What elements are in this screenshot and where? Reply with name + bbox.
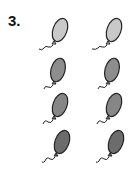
balloon-icon bbox=[38, 130, 78, 170]
balloon-icon bbox=[92, 130, 132, 170]
balloon-icon bbox=[90, 58, 130, 98]
balloon-icon bbox=[36, 93, 76, 133]
balloon-icon bbox=[90, 18, 130, 58]
balloon-icon bbox=[90, 93, 130, 133]
balloon-icon bbox=[36, 18, 76, 58]
exercise-number: 3. bbox=[8, 12, 21, 29]
balloon-icon bbox=[36, 58, 76, 98]
